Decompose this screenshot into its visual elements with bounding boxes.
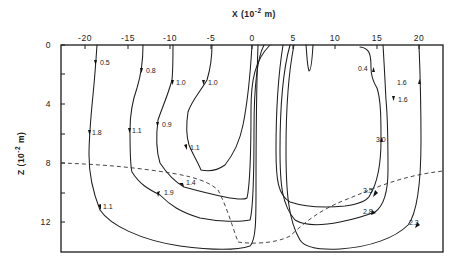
x-tick-label: 20 (414, 33, 424, 43)
arrow-icon (184, 144, 187, 150)
streamline-figure: X (10-2 m) Z (10-2 m) -20-15-10-50510152… (0, 0, 462, 268)
arrow-icon (372, 67, 375, 72)
streamline-label-l10a: 1.0 (176, 79, 186, 86)
streamline-label-l10b: 1.0 (208, 79, 218, 86)
streamline-label-l11c: 1.1 (103, 203, 113, 210)
streamline-label-l18: 1.8 (92, 129, 102, 136)
z-tick-label: 4 (46, 99, 51, 109)
x-tick-label: 5 (290, 33, 295, 43)
z-tick-label: 8 (46, 158, 51, 168)
x-tick-label: 10 (330, 33, 340, 43)
x-tick-label: -10 (163, 33, 177, 43)
arrow-icon (392, 96, 395, 101)
streamline-label-l11a: 1.1 (132, 127, 142, 134)
x-tick-label: -20 (78, 33, 92, 43)
streamline-label-l04: 0.4 (358, 65, 368, 72)
streamline-left-1 (89, 45, 258, 249)
arrow-icon (179, 183, 184, 187)
streamline-label-l09: 0.9 (162, 121, 172, 128)
x-tick-label: 0 (249, 33, 254, 43)
x-tick-label: -15 (121, 33, 135, 43)
arrow-icon (128, 128, 131, 133)
streamline-right-2 (280, 45, 388, 225)
arrow-icon (156, 122, 159, 127)
streamline-label-l16a: 1.6 (397, 79, 407, 86)
plot-frame (61, 45, 443, 252)
x-axis-title: X (10-2 m) (232, 7, 276, 19)
streamline-label-l28: 2.8 (363, 208, 373, 215)
arrow-icon (157, 191, 160, 197)
z-tick-label: 0 (46, 40, 51, 50)
streamline-label-l35: 3.5 (363, 187, 373, 194)
streamline-label-l11b: 1.1 (190, 144, 200, 151)
arrow-icon (94, 60, 97, 65)
z-axis-title: Z (10-2 m) (14, 132, 26, 175)
streamline-dip (306, 45, 313, 71)
x-axis-ticks: -20-15-10-505101520 (78, 33, 424, 49)
streamline-label-l05: 0.5 (100, 59, 110, 66)
x-tick-label: -5 (207, 33, 216, 43)
streamline-label-l23: 2.3 (409, 219, 419, 226)
z-tick-label: 12 (41, 217, 51, 227)
streamline-label-l08: 0.8 (146, 67, 156, 74)
x-tick-label: 15 (372, 33, 382, 43)
left-cell-streamlines (89, 45, 270, 249)
streamline-label-l16b: 1.6 (398, 96, 408, 103)
arrow-icon (88, 130, 91, 135)
right-cell-streamlines (276, 45, 421, 249)
streamline-label-l19: 1.9 (164, 189, 174, 196)
streamline-label-l30: 3.0 (376, 136, 386, 143)
streamline-label-l14: 1.4 (186, 179, 196, 186)
arrow-icon (373, 190, 378, 197)
streamline-left-4 (187, 45, 252, 171)
